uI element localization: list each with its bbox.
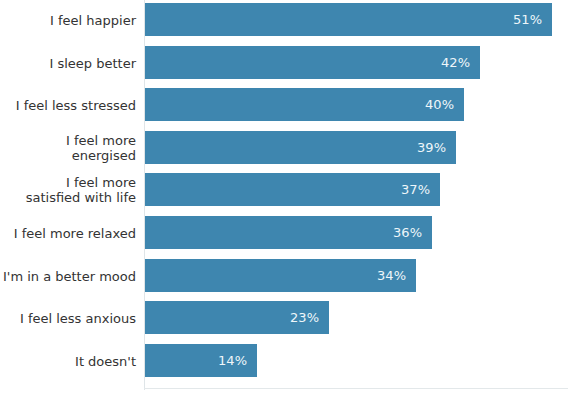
bar-value-label: 39%	[417, 141, 456, 154]
bar: 40%	[145, 88, 464, 121]
bar-row: I feel more satisfied with life37%	[0, 173, 568, 206]
bar-value-label: 40%	[425, 98, 464, 111]
category-label: I feel happier	[0, 12, 136, 27]
bar-row: I feel more energised39%	[0, 131, 568, 164]
bar-row: It doesn't14%	[0, 344, 568, 377]
bar-row: I feel more relaxed36%	[0, 216, 568, 249]
bar: 36%	[145, 216, 432, 249]
bar-chart: I feel happier51%I sleep better42%I feel…	[0, 0, 568, 399]
bar-value-label: 37%	[401, 183, 440, 196]
category-label: I feel more energised	[0, 133, 136, 163]
category-label: I sleep better	[0, 55, 136, 70]
bar-track: 14%	[145, 344, 257, 377]
bar-value-label: 36%	[393, 226, 432, 239]
bar: 37%	[145, 173, 440, 206]
bar-value-label: 23%	[290, 311, 329, 324]
bar-track: 37%	[145, 173, 440, 206]
bar: 42%	[145, 46, 480, 79]
bar-rows: I feel happier51%I sleep better42%I feel…	[0, 0, 568, 399]
bar-row: I feel less anxious23%	[0, 301, 568, 334]
bar-row: I feel less stressed40%	[0, 88, 568, 121]
bar: 51%	[145, 3, 552, 36]
bar: 34%	[145, 259, 416, 292]
bar-value-label: 34%	[377, 269, 416, 282]
bar: 39%	[145, 131, 456, 164]
bar-value-label: 14%	[218, 354, 257, 367]
category-label: I feel more satisfied with life	[0, 175, 136, 205]
category-label: I feel less anxious	[0, 310, 136, 325]
bar-track: 23%	[145, 301, 329, 334]
bar-track: 34%	[145, 259, 416, 292]
category-label: I feel more relaxed	[0, 225, 136, 240]
category-label: I feel less stressed	[0, 97, 136, 112]
bar-row: I'm in a better mood34%	[0, 259, 568, 292]
bar-track: 36%	[145, 216, 432, 249]
category-label: It doesn't	[0, 353, 136, 368]
bar: 23%	[145, 301, 329, 334]
bar-track: 40%	[145, 88, 464, 121]
bar: 14%	[145, 344, 257, 377]
bar-row: I sleep better42%	[0, 46, 568, 79]
bar-row: I feel happier51%	[0, 3, 568, 36]
bar-value-label: 42%	[441, 56, 480, 69]
bar-track: 39%	[145, 131, 456, 164]
bar-value-label: 51%	[513, 13, 552, 26]
category-label: I'm in a better mood	[0, 268, 136, 283]
bar-track: 42%	[145, 46, 480, 79]
bar-track: 51%	[145, 3, 552, 36]
